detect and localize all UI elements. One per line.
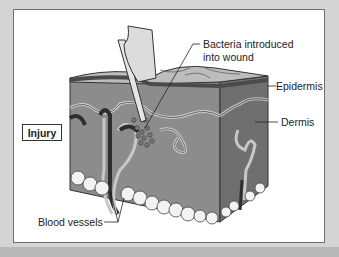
label-bacteria-line2: into wound — [203, 51, 254, 63]
label-epidermis: Epidermis — [276, 80, 323, 92]
label-dermis: Dermis — [281, 116, 314, 128]
label-injury: Injury — [22, 124, 62, 141]
label-bacteria-line1: Bacteria introduced — [203, 38, 293, 50]
label-blood-vessels: Blood vessels — [38, 216, 103, 228]
